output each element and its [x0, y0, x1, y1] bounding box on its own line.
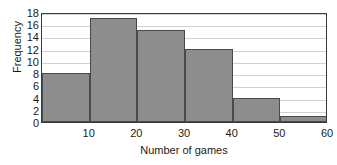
histogram-bar — [137, 30, 185, 122]
x-axis-tick-label: 50 — [264, 126, 294, 140]
x-axis-tick-label: 60 — [312, 126, 337, 140]
y-axis-tick-label: 12 — [14, 44, 39, 56]
histogram-bar — [280, 116, 327, 122]
y-axis-tick-label: 18 — [14, 7, 39, 19]
histogram-bar — [233, 98, 281, 122]
x-axis-tick-label: 30 — [169, 126, 199, 140]
histogram-bar — [42, 73, 90, 122]
y-axis-tick-label: 8 — [14, 68, 39, 80]
y-axis-tick-label: 4 — [14, 93, 39, 105]
histogram-bars — [42, 14, 326, 122]
y-axis-tick-label: 14 — [14, 31, 39, 43]
plot-area — [41, 13, 327, 123]
histogram-bar — [90, 18, 138, 122]
x-axis-tick-label: 10 — [74, 126, 104, 140]
y-axis-tick-label: 2 — [14, 105, 39, 117]
y-axis-tick-label: 6 — [14, 80, 39, 92]
histogram-bar — [185, 49, 233, 122]
x-axis-tick-label: 20 — [121, 126, 151, 140]
y-axis-tick-label: 10 — [14, 56, 39, 68]
x-axis-title: Number of games — [41, 144, 327, 156]
y-axis-tick-labels: 024681012141618 — [14, 0, 39, 165]
y-axis-tick-label: 16 — [14, 19, 39, 31]
x-axis-tick-labels: 102030405060 — [0, 126, 337, 140]
histogram-figure: Frequency 024681012141618 102030405060 N… — [0, 0, 337, 165]
x-axis-tick-label: 40 — [217, 126, 247, 140]
